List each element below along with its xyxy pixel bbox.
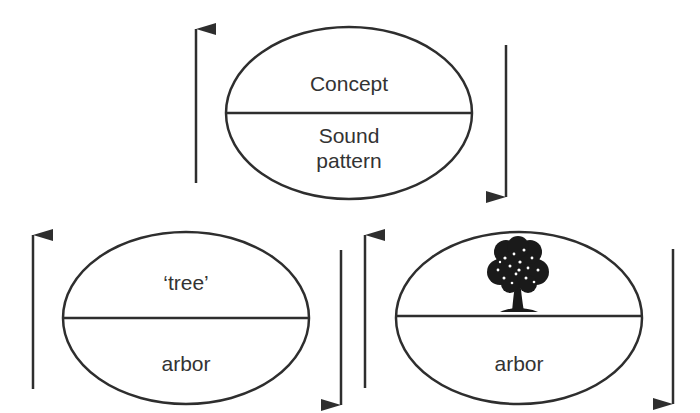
top-sign-pattern-label: pattern: [316, 149, 381, 173]
saussure-sign-diagram: Concept Sound pattern ‘tree’ arbor arbor: [0, 0, 700, 413]
left-sign: [63, 232, 309, 404]
diagram-canvas: [0, 0, 700, 413]
top-sign-sound-label: Sound: [319, 124, 380, 148]
top-sign: [226, 27, 472, 199]
top-sign-concept-label: Concept: [310, 72, 388, 96]
right-sign-arbor-label: arbor: [494, 352, 543, 376]
right-sign: [396, 232, 642, 404]
left-sign-arbor-label: arbor: [161, 352, 210, 376]
left-sign-tree-label: ‘tree’: [163, 271, 209, 295]
tree-icon: [487, 236, 549, 312]
